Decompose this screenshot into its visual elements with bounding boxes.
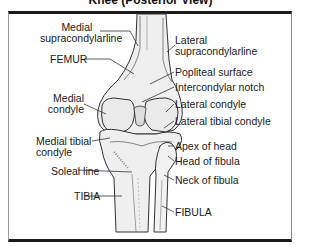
label-medial-tibial-condyle: Medial tibial condyle (36, 136, 91, 158)
label-text: supracondylarline (40, 33, 122, 44)
label-neck-of-fibula: Neck of fibula (175, 175, 239, 186)
label-text: condyle (46, 104, 84, 115)
label-lateral-condyle: Lateral condyle (175, 99, 246, 110)
label-apex-of-head: Apex of head (175, 141, 237, 152)
label-medial-supracondylar-line: Medial supracondylarline (40, 22, 92, 44)
label-lateral-tibial-condyle: Lateral tibial condyle (175, 116, 271, 127)
label-popliteal-surface: Popliteal surface (175, 67, 253, 78)
label-fibula: FIBULA (175, 207, 212, 218)
label-medial-condyle: Medial condyle (46, 93, 84, 115)
label-head-of-fibula: Head of fibula (175, 156, 240, 167)
label-femur: FEMUR (50, 54, 87, 65)
label-soleal-line: Soleal line (51, 166, 99, 177)
label-lateral-supracondylar-line: Lateral supracondylarline (175, 35, 257, 57)
label-text: condyle (36, 147, 91, 158)
label-intercondylar-notch: Intercondylar notch (175, 82, 264, 93)
label-tibia: TIBIA (74, 191, 100, 202)
label-text: supracondylarline (175, 46, 257, 57)
